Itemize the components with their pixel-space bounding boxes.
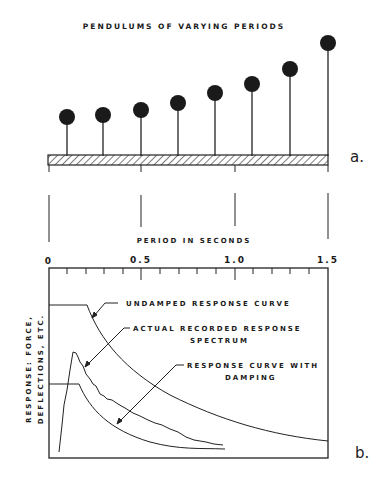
- pendulum-bobs: [59, 35, 336, 125]
- figure: PENDULUMS OF VARYING PERIODS a. PERIOD I…: [0, 0, 380, 481]
- axis-ticks: [67, 268, 309, 280]
- base-bar: [48, 155, 328, 165]
- annotation-leaders: [85, 303, 184, 424]
- actual-label-line2: SPECTRUM: [190, 337, 249, 345]
- period-guide-lines: [49, 165, 328, 242]
- undamped-label: UNDAMPED RESPONSE CURVE: [126, 300, 291, 308]
- panel-a-title: PENDULUMS OF VARYING PERIODS: [83, 22, 285, 31]
- panel-b-label: b.: [355, 444, 369, 462]
- tick-1-0: 1.0: [224, 255, 246, 265]
- damped-label-line1: RESPONSE CURVE WITH: [187, 362, 319, 370]
- damped-label-line2: DAMPING: [225, 374, 277, 382]
- axis-title: PERIOD IN SECONDS: [137, 237, 252, 245]
- damped-curve: [49, 384, 225, 449]
- pendulums: [67, 43, 328, 156]
- y-label-line1: RESPONSE: FORCE,: [25, 315, 33, 423]
- tick-0-5: 0.5: [130, 255, 152, 265]
- tick-1-5: 1.5: [317, 255, 339, 265]
- actual-label-line1: ACTUAL RECORDED RESPONSE: [133, 325, 302, 333]
- panel-a-label: a.: [350, 148, 364, 166]
- y-label-line2: DEFLECTIONS, ETC.: [37, 314, 45, 424]
- tick-0: 0: [45, 256, 53, 266]
